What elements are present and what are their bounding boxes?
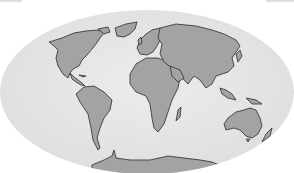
world-map (0, 0, 294, 173)
